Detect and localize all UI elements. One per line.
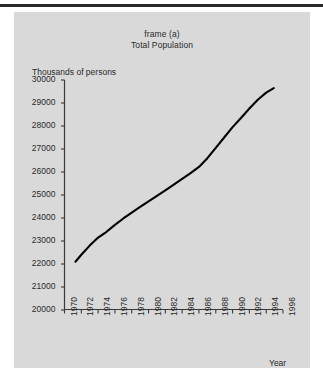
x-tick-label: 1970	[69, 297, 79, 316]
y-tick-label: 24000	[12, 212, 56, 222]
x-tick-label: 1978	[136, 297, 146, 316]
y-tick-label: 30000	[12, 74, 56, 84]
x-tick-label: 1986	[203, 297, 213, 316]
x-tick-label: 1994	[270, 297, 280, 316]
y-tick-label: 26000	[12, 166, 56, 176]
y-tick-label: 23000	[12, 235, 56, 245]
y-tick-label: 29000	[12, 97, 56, 107]
y-tick-label: 28000	[12, 120, 56, 130]
x-tick-label: 1980	[153, 297, 163, 316]
x-tick-label: 1992	[253, 297, 263, 316]
x-tick-label: 1976	[119, 297, 129, 316]
data-series-line	[75, 88, 273, 262]
x-tick-label: 1974	[102, 297, 112, 316]
x-tick-label: 1984	[186, 297, 196, 316]
axes-group	[65, 80, 284, 310]
y-tick-label: 25000	[12, 189, 56, 199]
x-tick-label: 1972	[85, 297, 95, 316]
y-tick-label: 22000	[12, 258, 56, 268]
y-tick-label: 20000	[12, 304, 56, 314]
chart-page: frame (a) Total Population Thousands of …	[0, 0, 323, 384]
y-tick-label: 21000	[12, 281, 56, 291]
x-tick-label: 1982	[169, 297, 179, 316]
x-tick-label: 1996	[287, 297, 297, 316]
x-tick-label: 1988	[220, 297, 230, 316]
y-tick-label: 27000	[12, 143, 56, 153]
x-tick-label: 1990	[237, 297, 247, 316]
